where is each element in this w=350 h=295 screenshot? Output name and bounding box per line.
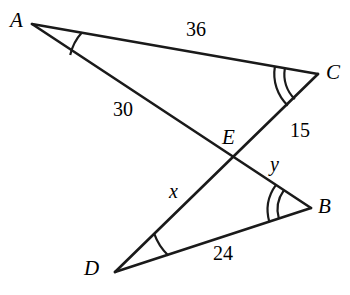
vertex-label-C: C [326,62,340,83]
angle-mark-D [154,234,168,256]
measure-label-EB: y [270,154,279,174]
angle-arc-C-2 [284,69,294,99]
vertex-label-A: A [10,10,23,31]
vertex-label-D: D [84,258,99,279]
angle-arc-B-2 [278,190,284,219]
measure-label-AC: 36 [186,19,206,39]
vertex-label-E: E [222,127,235,148]
geometry-canvas [0,0,350,295]
angle-arc-B-1 [268,185,276,222]
measure-label-AE: 30 [113,99,133,119]
measure-label-ED: x [169,181,178,201]
segment-group [32,24,318,272]
vertex-label-B: B [318,196,331,217]
angle-arc-D-1 [154,234,168,256]
segment-AC [32,24,318,74]
measure-label-DB: 24 [213,243,233,263]
geometry-figure: A C E B D 36 30 15 x y 24 [0,0,350,295]
measure-label-CE: 15 [290,120,310,140]
